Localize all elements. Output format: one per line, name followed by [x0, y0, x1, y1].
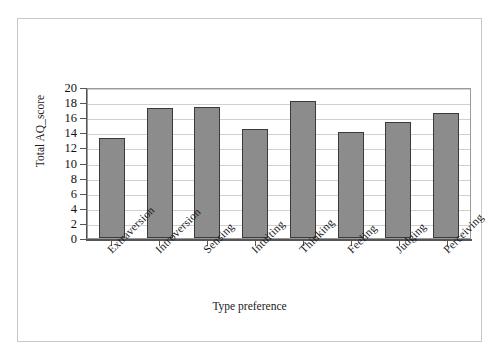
y-axis-tick-labels: 02468101214161820: [32, 19, 77, 343]
y-tick-label: 20: [37, 82, 77, 95]
bar: [433, 113, 459, 238]
y-tick-mark: [80, 148, 86, 149]
bar: [338, 132, 364, 238]
y-tick-label: 18: [37, 97, 77, 110]
y-tick-mark: [80, 239, 86, 240]
y-tick-mark: [80, 209, 86, 210]
y-tick-mark: [80, 194, 86, 195]
y-tick-mark: [80, 179, 86, 180]
y-tick-mark: [80, 224, 86, 225]
y-tick-label: 6: [37, 188, 77, 201]
y-tick-label: 4: [37, 203, 77, 216]
y-tick-label: 10: [37, 158, 77, 171]
y-tick-label: 12: [37, 142, 77, 155]
y-tick-mark: [80, 164, 86, 165]
chart-figure: Total AQ_score 02468101214161820 Extrave…: [17, 18, 482, 342]
bar: [290, 101, 316, 238]
bar: [99, 138, 125, 238]
x-axis-title: Type preference: [18, 300, 481, 312]
y-tick-mark: [80, 88, 86, 89]
bar: [242, 129, 268, 238]
y-tick-mark: [80, 118, 86, 119]
y-tick-mark: [80, 103, 86, 104]
bar: [385, 122, 411, 238]
y-tick-label: 16: [37, 112, 77, 125]
y-tick-mark: [80, 133, 86, 134]
bar: [147, 108, 173, 238]
y-tick-label: 8: [37, 173, 77, 186]
y-tick-label: 2: [37, 218, 77, 231]
y-tick-label: 0: [37, 233, 77, 246]
y-tick-label: 14: [37, 127, 77, 140]
